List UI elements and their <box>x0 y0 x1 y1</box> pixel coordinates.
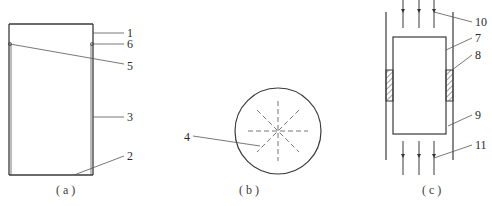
technical-diagram: 1 6 5 3 2 ( a ) 4 ( b ) <box>0 0 492 206</box>
label-9: 9 <box>475 108 481 122</box>
panel-c: 10 7 8 9 11 ( c ) <box>386 0 487 197</box>
label-7: 7 <box>475 31 481 45</box>
label-6: 6 <box>127 37 133 51</box>
cross-section-circle <box>235 88 321 174</box>
caption-b: ( b ) <box>239 183 259 197</box>
label-8: 8 <box>475 48 481 62</box>
hatched-seal-left <box>386 70 393 101</box>
radial-dashed-lines <box>248 101 308 161</box>
inner-block <box>393 37 446 134</box>
label-11: 11 <box>475 138 487 152</box>
hatched-seal-right <box>446 70 453 101</box>
label-5: 5 <box>127 59 133 73</box>
cylinder-body <box>9 24 94 175</box>
inflow-arrows <box>401 0 436 28</box>
label-4: 4 <box>184 130 190 144</box>
caption-c: ( c ) <box>422 183 441 197</box>
label-10: 10 <box>475 15 487 29</box>
panel-a: 1 6 5 3 2 ( a ) <box>9 24 134 197</box>
outflow-arrows <box>401 141 436 175</box>
caption-a: ( a ) <box>56 183 75 197</box>
panel-b: 4 ( b ) <box>184 88 321 197</box>
label-3: 3 <box>127 110 133 124</box>
label-2: 2 <box>127 149 133 163</box>
